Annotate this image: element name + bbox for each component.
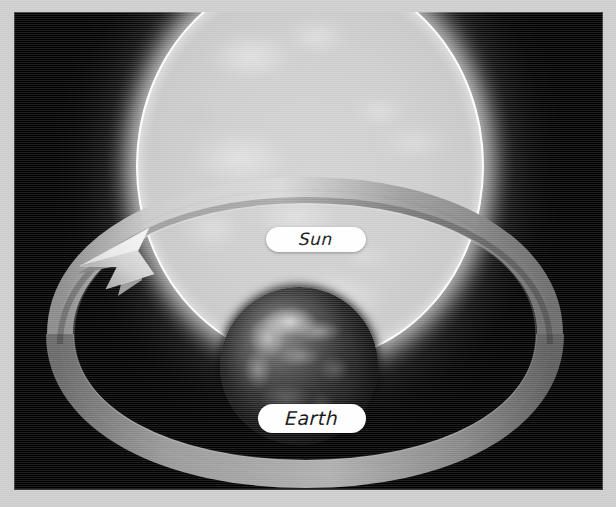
diagram-frame: Sun Earth	[0, 0, 616, 507]
sun-label-text: Sun	[299, 231, 334, 248]
sun-label-pill[interactable]: Sun	[266, 227, 366, 252]
earth-label-pill[interactable]: Earth	[258, 404, 366, 433]
space-canvas: Sun Earth	[14, 12, 603, 490]
earth-label-text: Earth	[285, 409, 339, 428]
